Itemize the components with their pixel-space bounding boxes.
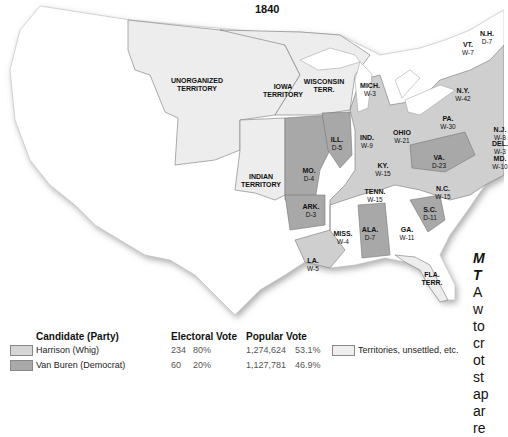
- state-label-ind: IND.W-9: [360, 134, 374, 150]
- state-label-mich: MICH.W-3: [360, 82, 380, 98]
- state-label-del: DEL.W-3: [492, 140, 508, 156]
- state-label-vt: VT.W-7: [462, 41, 474, 57]
- state-label-tenn: TENN.W-15: [365, 188, 386, 204]
- state-label-ala: ALA.D-7: [362, 226, 378, 242]
- legend-header-popular: Popular Vote: [246, 331, 307, 342]
- state-label-pa: PA.W-30: [440, 115, 455, 131]
- state-label-mo: MO.D-4: [302, 167, 315, 183]
- state-label-ill: ILL.D-5: [331, 136, 343, 152]
- region-label: WISCONSINTERR.: [304, 78, 344, 94]
- legend-header-candidate: Candidate (Party): [36, 331, 119, 342]
- region-label: IOWATERRITORY: [263, 83, 303, 99]
- state-label-ky: KY.W-15: [375, 162, 390, 178]
- side-caption: M T A w to cr ot st ap ar re: [473, 250, 489, 437]
- legend-row-territories: Territories, unsettled, etc.: [332, 345, 459, 356]
- legend-row-vanburen: Van Buren (Democrat): [10, 360, 125, 371]
- state-label-nc: N.C.W-15: [435, 185, 450, 201]
- legend-row-harrison: Harrison (Whig): [10, 345, 99, 356]
- region-label: INDIANTERRITORY: [241, 173, 281, 189]
- state-label-ohio: OHIOW-21: [393, 129, 411, 145]
- state-label-md: MD.W-10: [492, 155, 507, 171]
- territory-swatch: [332, 345, 355, 356]
- democrat-swatch: [10, 360, 33, 371]
- state-label-nh: N.H.D-7: [480, 30, 494, 46]
- region-label: FLA.TERR.: [422, 271, 443, 287]
- whig-swatch: [10, 345, 33, 356]
- state-label-ark: ARK.D-3: [302, 203, 319, 219]
- state-label-ga: GA.W-11: [400, 226, 415, 242]
- state-label-miss: MISS.W-4: [333, 230, 352, 246]
- legend-header-electoral: Electoral Vote: [171, 331, 237, 342]
- region-label: UNORGANIZEDTERRITORY: [171, 77, 223, 93]
- state-label-ny: N.Y.W-42: [455, 87, 470, 103]
- state-label-sc: S.C.D-11: [423, 206, 437, 222]
- state-label-la: LA.W-5: [307, 257, 319, 273]
- state-label-va: VA.D-23: [432, 154, 446, 170]
